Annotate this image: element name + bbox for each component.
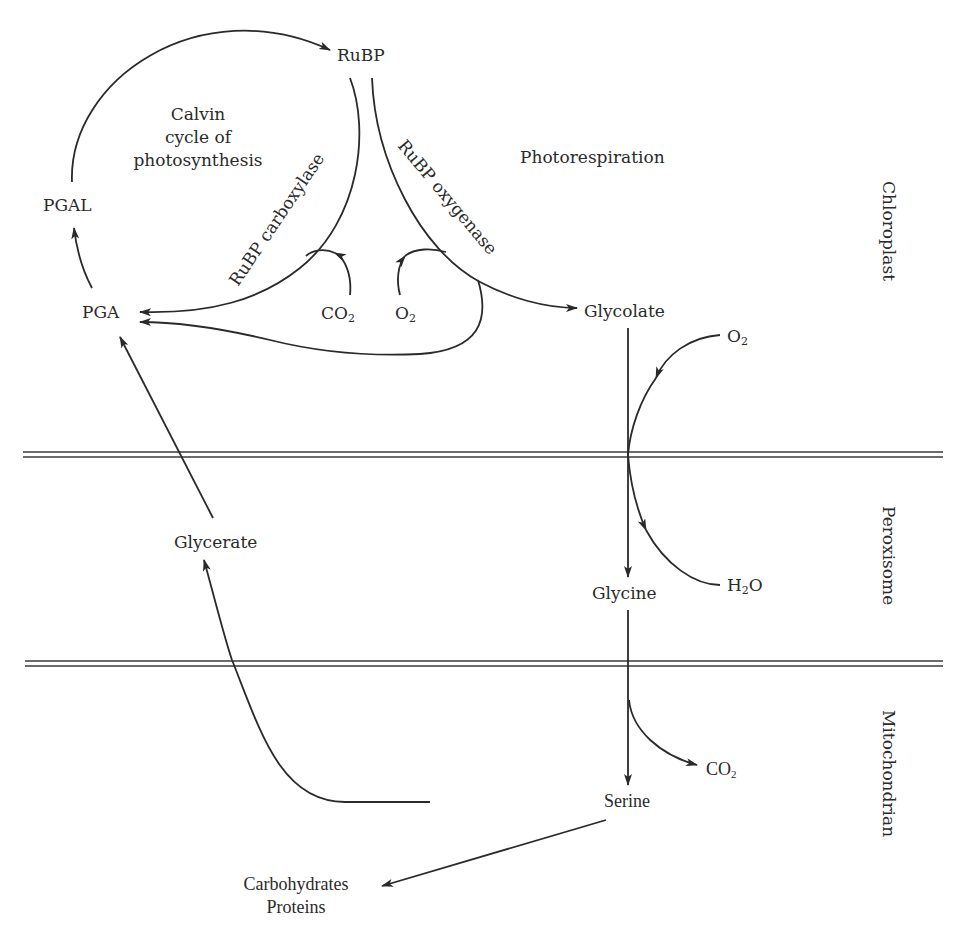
enzyme-label-carboxylase: RuBP carboxylase (225, 149, 329, 289)
arrow-glycerate-to-pga (120, 337, 213, 518)
arrow-o2-into-oxygenase (398, 256, 405, 295)
node-o2-peroxisome: O2 (727, 326, 748, 348)
calvin-label-line1: Calvin (171, 104, 226, 124)
enzyme-label-oxygenase: RuBP oxygenase (394, 136, 501, 259)
node-o2-input: O2 (395, 303, 416, 325)
photorespiration-label: Photorespiration (520, 147, 665, 167)
node-products-line1: Carbohydrates (244, 874, 349, 894)
calvin-label-line3: photosynthesis (133, 150, 262, 170)
photorespiration-diagram: Chloroplast Peroxisome Mitochondrian Cal… (0, 0, 967, 928)
node-pga: PGA (82, 302, 120, 322)
node-glycine: Glycine (592, 583, 657, 603)
node-co2-input: CO2 (321, 303, 355, 325)
node-co2-output: CO2 (706, 759, 737, 780)
peroxisome-mitochondrian-membrane (25, 661, 943, 666)
compartment-label-chloroplast: Chloroplast (879, 181, 899, 281)
arrow-o2-peroxisome (656, 335, 720, 378)
node-serine: Serine (604, 791, 650, 811)
node-pgal: PGAL (43, 195, 92, 215)
arrow-serine-to-glycerate (204, 560, 430, 802)
arrow-h2o-out (628, 455, 646, 530)
arrow-rubp-oxygenase-to-glycolate (372, 78, 577, 308)
o2-merge-line (405, 249, 446, 256)
node-rubp: RuBP (337, 45, 385, 65)
node-glycolate: Glycolate (584, 301, 665, 321)
o2-peroxisome-merge (628, 378, 656, 455)
arrow-co2-out (629, 700, 697, 765)
chloroplast-peroxisome-membrane (23, 452, 943, 457)
node-products-line2: Proteins (266, 897, 325, 917)
arrow-pga-to-pgal (74, 228, 92, 288)
node-glycerate: Glycerate (174, 532, 257, 552)
calvin-label-line2: cycle of (165, 127, 233, 147)
compartment-label-mitochondrian: Mitochondrian (879, 710, 899, 837)
compartment-label-peroxisome: Peroxisome (879, 506, 899, 605)
arrow-co2-into-carboxylase (335, 253, 350, 295)
node-h2o: H2O (727, 575, 763, 597)
arrow-serine-to-products (382, 820, 606, 886)
h2o-out-tail (646, 530, 720, 585)
co2-merge-line (306, 250, 335, 256)
arrow-oxygenase-to-pga (140, 280, 482, 355)
